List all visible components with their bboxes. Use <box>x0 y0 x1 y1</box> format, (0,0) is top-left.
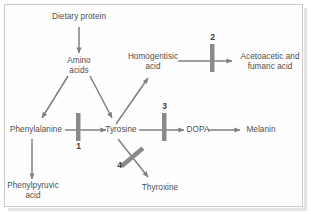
arrow-amino-acids-to-phenylalanine <box>42 76 68 118</box>
block-bar-3 <box>162 113 167 141</box>
arrow-tyrosine-to-homogentisic <box>116 78 148 124</box>
node-dopa: DOPA <box>185 125 211 135</box>
block-label-1: 1 <box>72 142 85 151</box>
pathway-diagram: Dietary protein Amino acids Homogentisic… <box>0 0 311 214</box>
node-dietary-protein: Dietary protein <box>38 12 120 22</box>
block-label-4: 4 <box>113 161 126 170</box>
node-phenylalanine: Phenylalanine <box>6 125 66 135</box>
block-label-3: 3 <box>158 102 171 111</box>
node-tyrosine: Tyrosine <box>100 125 142 135</box>
block-bar-2 <box>210 44 215 72</box>
node-thyroxine: Thyroxine <box>136 183 184 193</box>
node-homogentisic-acid: Homogentisic acid <box>125 52 181 71</box>
node-acetoacetic-fumaric-acid: Acetoacetic and fumaric acid <box>234 52 306 71</box>
block-bar-1 <box>76 113 81 141</box>
node-phenylpyruvic-acid: Phenylpyruvic acid <box>4 181 62 200</box>
node-melanin: Melanin <box>242 125 280 135</box>
block-label-2: 2 <box>206 33 219 42</box>
arrow-amino-acids-to-tyrosine <box>90 76 112 118</box>
node-amino-acids: Amino acids <box>54 56 104 75</box>
